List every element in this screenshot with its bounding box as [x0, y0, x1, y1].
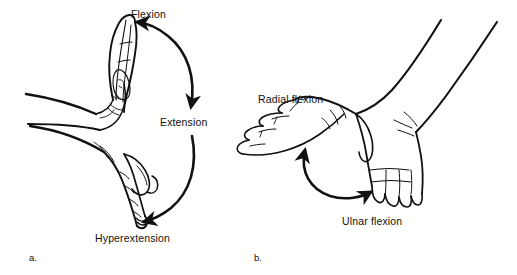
label-hyperextension: Hyperextension: [95, 232, 170, 244]
panel-letter-a: a.: [29, 252, 37, 263]
label-extension: Extension: [160, 116, 207, 128]
hand-flexed: [26, 15, 137, 130]
label-ulnar-flexion: Ulnar flexion: [342, 215, 402, 227]
label-radial-flexion: Radial flexion: [258, 93, 323, 105]
flexion-arrow-path: [137, 22, 192, 107]
label-flexion: Flexion: [131, 8, 166, 20]
hand-hyperextended: [30, 126, 158, 228]
wrist-movement-figure: Flexion Extension Hyperextension Radial …: [0, 0, 517, 275]
panel-letter-b: b.: [254, 252, 262, 263]
hand-ulnar-deviated: [356, 22, 497, 207]
hyperextension-arrow-path: [144, 136, 194, 222]
figure-artwork: [0, 0, 517, 275]
